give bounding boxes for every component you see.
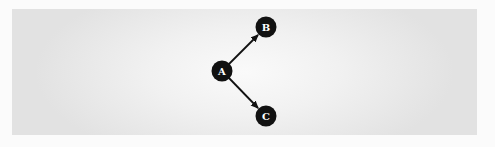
node-c: C [256, 106, 277, 127]
node-a-label: A [217, 66, 226, 77]
edge-a-to-c [229, 78, 258, 108]
edge-a-to-b [229, 35, 258, 64]
node-b-label: B [262, 22, 270, 33]
node-a: A [212, 61, 233, 82]
directed-graph: A B C [0, 0, 495, 147]
node-c-label: C [262, 111, 270, 122]
node-b: B [256, 17, 277, 38]
